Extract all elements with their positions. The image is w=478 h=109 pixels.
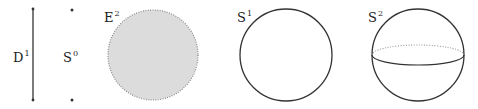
s2-sphere [372,9,464,101]
equator-front-arc [372,55,464,65]
d1-segment [32,8,35,102]
label-s2: S2 [368,10,383,24]
label-e2: E2 [104,10,120,24]
topology-figure: D1 S0 E2 S1 S2 [0,0,478,109]
label-d1: D1 [13,50,30,64]
equator-back-arc [372,45,464,55]
e2-disk [108,10,198,100]
s1-circle [240,9,332,101]
label-s1: S1 [237,10,252,24]
label-s0: S0 [63,50,78,64]
